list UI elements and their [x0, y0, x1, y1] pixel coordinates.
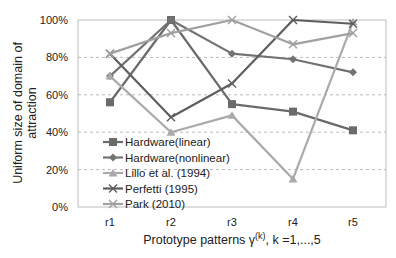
square-marker: [106, 98, 114, 106]
legend-label: Hardware(linear): [125, 136, 211, 148]
y-tick-label: 0%: [52, 201, 68, 213]
x-tick-label: r2: [166, 216, 176, 228]
y-axis-ticks: 0%20%40%60%80%100%: [40, 14, 68, 213]
legend-item: Hardware(linear): [103, 136, 211, 148]
y-tick-label: 80%: [46, 51, 68, 63]
square-marker: [109, 138, 117, 146]
x-tick-label: r1: [105, 216, 115, 228]
y-tick-label: 100%: [40, 14, 68, 26]
diamond-marker: [289, 55, 297, 63]
legend-item: Lillo et al. (1994): [103, 167, 210, 179]
y-tick-label: 60%: [46, 89, 68, 101]
y-axis-label-line1: Uniform size of domain of: [11, 42, 25, 184]
legend-label: Hardware(nonlinear): [125, 152, 230, 164]
y-axis-label: Uniform size of domain of attraction: [11, 42, 39, 184]
series-hardware-nonlinear-: [106, 16, 357, 80]
legend-item: Hardware(nonlinear): [103, 152, 230, 164]
x-tick-label: r4: [288, 216, 298, 228]
legend-item: Perfetti (1995): [103, 183, 198, 195]
diamond-marker: [349, 68, 357, 76]
x-axis-ticks: r1r2r3r4r5: [105, 216, 358, 228]
y-tick-label: 20%: [46, 164, 68, 176]
square-marker: [289, 108, 297, 116]
line-chart: 0%20%40%60%80%100% r1r2r3r4r5 Hardware(l…: [0, 0, 396, 258]
chart-canvas: 0%20%40%60%80%100% r1r2r3r4r5 Hardware(l…: [0, 0, 396, 258]
x-axis-label: Prototype patterns γ(k), k =1,...,5: [143, 231, 321, 247]
square-marker: [228, 100, 236, 108]
legend: Hardware(linear)Hardware(nonlinear)Lillo…: [103, 136, 230, 210]
x-tick-label: r5: [348, 216, 358, 228]
y-tick-label: 40%: [46, 126, 68, 138]
diamond-marker: [109, 154, 117, 162]
legend-label: Park (2010): [125, 198, 185, 210]
y-axis-label-line2: attraction: [25, 87, 39, 138]
legend-label: Lillo et al. (1994): [125, 167, 210, 179]
square-marker: [349, 126, 357, 134]
legend-item: Park (2010): [103, 198, 185, 210]
x-tick-label: r3: [227, 216, 237, 228]
legend-label: Perfetti (1995): [125, 183, 198, 195]
